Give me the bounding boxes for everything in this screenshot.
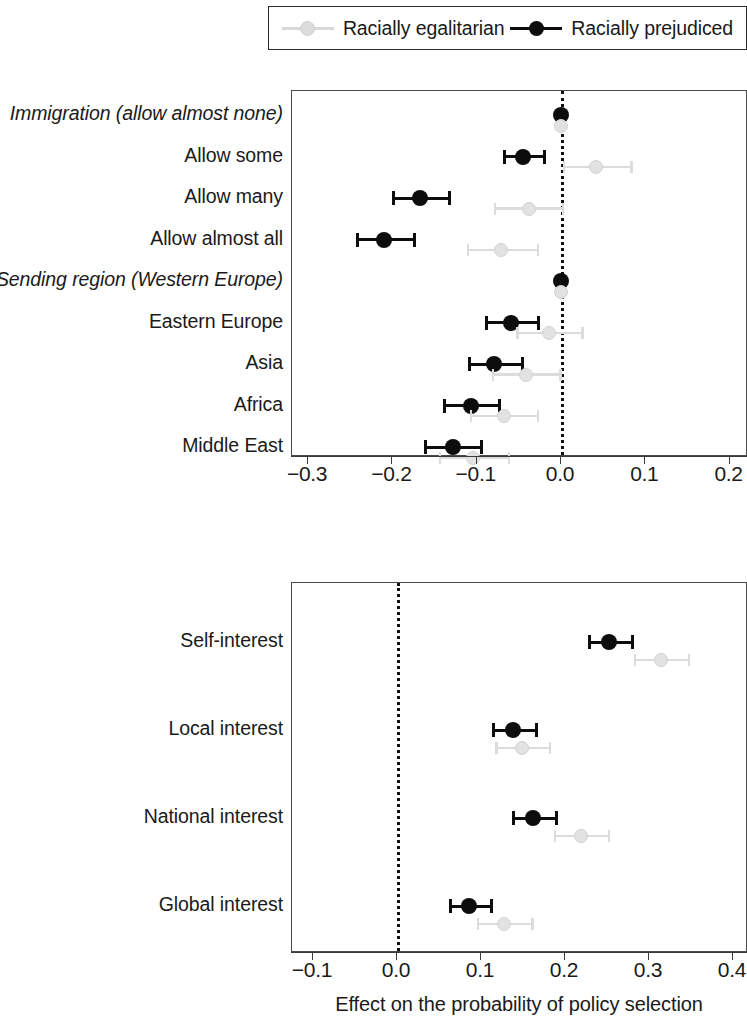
lower-panel-plot-area (291, 582, 747, 952)
figure-root: Racially egalitarian Racially prejudiced… (0, 0, 747, 1026)
legend-entry-prejudiced: Racially prejudiced (510, 17, 733, 40)
axis-tick-label: −0.3 (287, 462, 327, 486)
axis-tick-label: 0.0 (382, 958, 410, 982)
ci-cap (468, 357, 471, 371)
ci-cap (492, 723, 495, 737)
point-estimate-marker (497, 409, 511, 423)
ci-cap (562, 203, 564, 215)
axis-tick-label: 0.4 (718, 958, 746, 982)
point-estimate-marker (519, 368, 533, 382)
ci-cap (356, 233, 359, 247)
category-label: Local interest (168, 719, 283, 739)
ci-cap (630, 161, 632, 173)
ci-cap (537, 410, 539, 422)
category-label: Allow many (184, 187, 283, 207)
ci-cap (503, 150, 506, 164)
category-label: Eastern Europe (149, 312, 283, 332)
ci-cap (485, 316, 488, 330)
ci-cap (634, 654, 636, 666)
ci-cap (439, 452, 441, 464)
ci-cap (490, 899, 493, 913)
point-estimate-marker (589, 160, 603, 174)
legend-entry-egalitarian: Racially egalitarian (282, 17, 505, 40)
point-estimate-marker (515, 741, 529, 755)
axis-line (291, 456, 747, 457)
point-estimate-marker (574, 829, 588, 843)
ci-cap (688, 654, 690, 666)
ci-cap (494, 203, 496, 215)
category-label: Allow almost all (150, 229, 283, 249)
ci-cap (537, 316, 540, 330)
ci-cap (537, 244, 539, 256)
category-label: National interest (144, 807, 283, 827)
ci-cap (508, 452, 510, 464)
point-estimate-marker (497, 917, 511, 931)
ci-cap (448, 191, 451, 205)
upper-panel-y-axis-labels: Immigration (allow almost none)Allow som… (0, 90, 283, 456)
ci-cap (631, 635, 634, 649)
category-label: Middle East (182, 436, 283, 456)
ci-cap (424, 440, 427, 454)
point-estimate-marker (542, 326, 556, 340)
category-label: Allow some (184, 146, 283, 166)
point-estimate-marker (522, 202, 536, 216)
legend-label-egalitarian: Racially egalitarian (343, 17, 505, 40)
point-estimate-marker (486, 356, 502, 372)
legend-marker-dark-dot-icon (510, 20, 562, 36)
ci-cap (443, 399, 446, 413)
ci-cap (535, 723, 538, 737)
ci-cap (549, 742, 551, 754)
point-estimate-marker (505, 722, 521, 738)
point-estimate-marker (515, 149, 531, 165)
ci-cap (492, 369, 494, 381)
point-estimate-marker (461, 898, 477, 914)
lower-panel-y-axis-labels: Self-interestLocal interestNational inte… (0, 582, 283, 952)
ci-cap (467, 244, 469, 256)
ci-cap (563, 161, 565, 173)
axis-tick-label: 0.1 (630, 462, 658, 486)
x-axis-title: Effect on the probability of policy sele… (291, 993, 747, 1016)
legend-label-prejudiced: Racially prejudiced (571, 17, 733, 40)
upper-panel-plot-area (291, 90, 747, 456)
ci-cap (559, 369, 561, 381)
ci-cap (392, 191, 395, 205)
ci-cap (555, 811, 558, 825)
ci-cap (581, 327, 583, 339)
point-estimate-marker (376, 232, 392, 248)
axis-tick-label: −0.1 (456, 462, 496, 486)
ci-cap (512, 811, 515, 825)
point-estimate-marker (601, 634, 617, 650)
ci-cap (588, 635, 591, 649)
point-estimate-marker (412, 190, 428, 206)
ci-cap (413, 233, 416, 247)
axis-tick-label: 0.0 (546, 462, 574, 486)
point-estimate-marker (445, 439, 461, 455)
point-estimate-marker (554, 119, 568, 133)
ci-cap (480, 440, 483, 454)
category-label: Sending region (Western Europe) (0, 270, 283, 290)
ci-cap (449, 899, 452, 913)
ci-cap (543, 150, 546, 164)
axis-tick-label: 0.2 (714, 462, 742, 486)
ci-cap (554, 830, 556, 842)
axis-tick-label: −0.1 (292, 958, 332, 982)
axis-tick-label: −0.2 (371, 462, 411, 486)
ci-cap (477, 918, 479, 930)
ci-cap (531, 918, 533, 930)
legend-marker-light-dot-icon (282, 20, 334, 36)
point-estimate-marker (654, 653, 668, 667)
point-estimate-marker (494, 243, 508, 257)
category-label: Global interest (159, 895, 283, 915)
point-estimate-marker (525, 810, 541, 826)
ci-cap (470, 410, 472, 422)
category-label: Immigration (allow almost none) (10, 104, 283, 124)
ci-cap (495, 742, 497, 754)
axis-tick-label: 0.2 (550, 958, 578, 982)
ci-cap (608, 830, 610, 842)
ci-cap (516, 327, 518, 339)
point-estimate-marker (554, 285, 568, 299)
category-label: Self-interest (180, 631, 283, 651)
axis-tick-label: 0.1 (466, 958, 494, 982)
legend: Racially egalitarian Racially prejudiced (268, 6, 747, 50)
axis-line (291, 952, 747, 953)
